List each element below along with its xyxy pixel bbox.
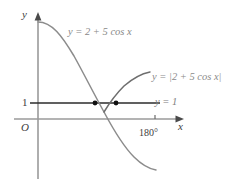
intersection-dot-right — [114, 101, 119, 106]
graph-figure: y = 2 + 5 cos x y = |2 + 5 cos x| y = 1 … — [0, 0, 231, 182]
intersection-dot-left — [93, 101, 98, 106]
y-axis-label: y — [22, 9, 27, 20]
origin-label: O — [21, 122, 29, 133]
y-tick-1-label: 1 — [22, 97, 28, 108]
curve-cosine-label: y = 2 + 5 cos x — [68, 27, 132, 38]
y-axis-arrowhead — [35, 12, 42, 21]
curve-cosine — [38, 22, 156, 170]
x-tick-180-label: 180° — [139, 128, 158, 138]
x-axis-label: x — [178, 121, 183, 132]
curve-absolute — [104, 72, 150, 112]
curve-absolute-label: y = |2 + 5 cos x| — [152, 72, 222, 83]
line-y1-label: y = 1 — [155, 97, 177, 108]
